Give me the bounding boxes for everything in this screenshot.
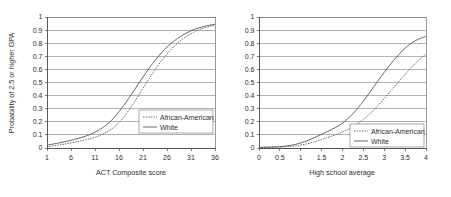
x-tick-label: 1 bbox=[45, 154, 49, 161]
x-axis-title-act: ACT Composite score bbox=[96, 168, 166, 177]
x-tick-label: 2.5 bbox=[359, 154, 369, 161]
legend-label-african-american-hsa: African-American bbox=[371, 128, 425, 135]
x-tick-label: 26 bbox=[163, 154, 171, 161]
legend-hsa: African-American White bbox=[350, 124, 425, 147]
y-tick-label: 0.5 bbox=[245, 79, 255, 86]
x-tick-label: 1.5 bbox=[317, 154, 327, 161]
y-tick-label: 0.9 bbox=[245, 27, 255, 34]
x-ticklabels-act: 16111621263136 bbox=[45, 154, 219, 161]
y-tick-label: 0 bbox=[39, 144, 43, 151]
legend-label-white-act: White bbox=[160, 124, 178, 131]
y-tick-label: 0.7 bbox=[33, 53, 43, 60]
y-ticklabels-hsa: 00.10.20.30.40.50.60.70.80.91 bbox=[245, 13, 255, 151]
y-tick-label: 0.6 bbox=[33, 66, 43, 73]
y-tick-label: 0.1 bbox=[33, 131, 43, 138]
y-tick-label: 0.1 bbox=[245, 131, 255, 138]
y-tick-label: 0.8 bbox=[245, 40, 255, 47]
chart-panel-act: 00.10.20.30.40.50.60.70.80.91 1611162126… bbox=[0, 0, 226, 197]
y-tick-label: 0.4 bbox=[245, 92, 255, 99]
legend-label-african-american-act: African-American bbox=[160, 114, 214, 121]
x-tick-label: 6 bbox=[69, 154, 73, 161]
y-tick-label: 0.7 bbox=[245, 53, 255, 60]
y-tick-label: 0.8 bbox=[33, 40, 43, 47]
x-axis-title-hsa: High school average bbox=[309, 168, 375, 177]
figure-container: 00.10.20.30.40.50.60.70.80.91 1611162126… bbox=[0, 0, 451, 197]
y-tick-label: 1 bbox=[39, 13, 43, 20]
y-tick-label: 0.9 bbox=[33, 27, 43, 34]
chart-svg-act: 00.10.20.30.40.50.60.70.80.91 1611162126… bbox=[0, 0, 226, 197]
x-ticklabels-hsa: 00.511.522.533.54 bbox=[257, 154, 428, 161]
y-tick-label: 0.2 bbox=[33, 118, 43, 125]
x-tick-label: 21 bbox=[139, 154, 147, 161]
x-tick-label: 4 bbox=[424, 154, 428, 161]
y-ticklabels-act: 00.10.20.30.40.50.60.70.80.91 bbox=[33, 13, 43, 151]
x-tick-label: 36 bbox=[211, 154, 219, 161]
y-tick-label: 0.3 bbox=[245, 105, 255, 112]
x-tick-label: 3 bbox=[382, 154, 386, 161]
legend-label-white-hsa: White bbox=[371, 138, 389, 145]
y-tick-label: 0.5 bbox=[33, 79, 43, 86]
y-axis-title-act: Probability of 2.5 or higher GPA bbox=[7, 33, 16, 134]
legend-act: African-American White bbox=[139, 110, 214, 133]
chart-svg-hsa: 00.10.20.30.40.50.60.70.80.91 00.511.522… bbox=[225, 0, 451, 197]
y-tick-label: 0.3 bbox=[33, 105, 43, 112]
x-tick-label: 11 bbox=[91, 154, 98, 161]
y-tick-label: 1 bbox=[251, 13, 255, 20]
x-tick-label: 0 bbox=[257, 154, 261, 161]
y-tick-label: 0.2 bbox=[245, 118, 255, 125]
y-tick-label: 0.6 bbox=[245, 66, 255, 73]
x-tick-label: 1 bbox=[299, 154, 303, 161]
x-tick-label: 16 bbox=[115, 154, 123, 161]
x-tick-label: 31 bbox=[187, 154, 195, 161]
y-tick-label: 0 bbox=[251, 144, 255, 151]
y-tick-label: 0.4 bbox=[33, 92, 43, 99]
x-tick-label: 2 bbox=[341, 154, 345, 161]
chart-panel-hsa: 00.10.20.30.40.50.60.70.80.91 00.511.522… bbox=[225, 0, 451, 197]
x-tick-label: 0.5 bbox=[275, 154, 285, 161]
x-tick-label: 3.5 bbox=[400, 154, 410, 161]
